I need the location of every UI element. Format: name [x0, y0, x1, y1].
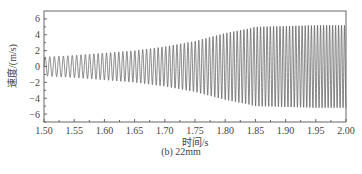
y-tick-label: −2: [29, 77, 40, 88]
y-axis-label: 速度/(m/s): [6, 44, 19, 88]
y-tick-label: −6: [29, 109, 40, 120]
y-tick-label: 6: [35, 13, 40, 24]
y-tick-label: 2: [35, 45, 40, 56]
y-tick-label: 0: [35, 61, 40, 72]
y-tick-label: 4: [35, 29, 40, 40]
y-tick-label: −4: [29, 93, 40, 104]
figure-caption: (b) 22mm: [0, 146, 362, 157]
velocity-series-line: [44, 25, 346, 107]
